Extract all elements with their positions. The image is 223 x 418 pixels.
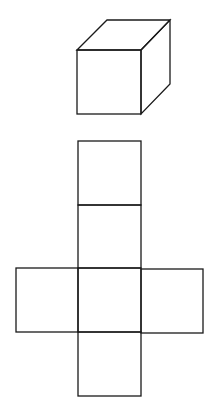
net-face-top xyxy=(78,141,141,205)
net-face-bottom xyxy=(78,332,141,396)
net-face-left xyxy=(16,268,78,332)
net-face-right xyxy=(141,269,203,333)
cube-net xyxy=(16,141,203,396)
net-face-center xyxy=(78,268,141,332)
net-face-upper xyxy=(78,205,141,268)
cube-side-face xyxy=(141,20,170,114)
cube-front-face xyxy=(77,50,141,114)
cube-3d xyxy=(77,20,170,114)
diagram-canvas xyxy=(0,0,223,418)
